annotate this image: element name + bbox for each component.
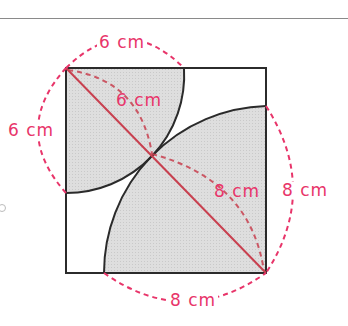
label-bottom: 8 cm — [168, 292, 218, 309]
label-top: 6 cm — [97, 34, 147, 51]
label-left: 6 cm — [8, 122, 54, 139]
label-right: 8 cm — [282, 182, 328, 199]
label-inner-small: 6 cm — [116, 92, 162, 109]
label-inner-large: 8 cm — [214, 183, 260, 200]
geometry-figure — [0, 0, 348, 326]
